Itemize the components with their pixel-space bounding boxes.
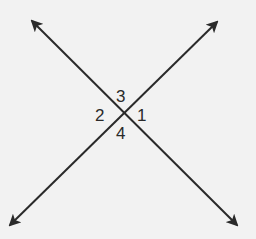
line-a xyxy=(32,21,237,225)
angle-label-3: 3 xyxy=(116,88,125,105)
line-b xyxy=(10,22,217,225)
intersecting-lines-figure xyxy=(0,0,256,239)
angle-label-1: 1 xyxy=(137,107,146,124)
diagram-canvas: 3 1 2 4 xyxy=(0,0,256,239)
angle-label-2: 2 xyxy=(95,107,104,124)
angle-label-4: 4 xyxy=(116,125,125,142)
